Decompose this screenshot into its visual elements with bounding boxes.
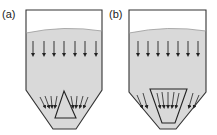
silo-diagram: (a) (b) bbox=[0, 0, 217, 135]
panel-a-label: (a) bbox=[2, 8, 15, 20]
panel-b: (b) bbox=[109, 8, 206, 129]
panel-a: (a) bbox=[2, 8, 102, 129]
panel-b-label: (b) bbox=[109, 8, 122, 20]
